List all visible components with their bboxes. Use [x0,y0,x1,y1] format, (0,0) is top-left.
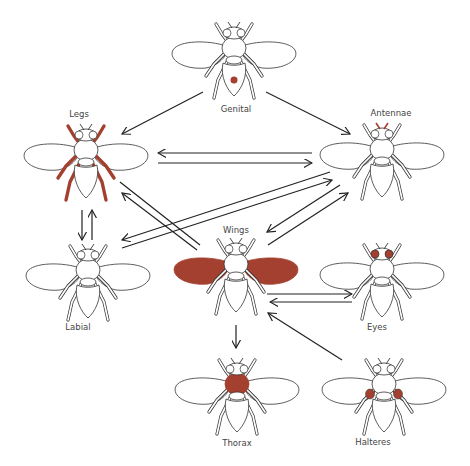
fly-halteres-illustration [322,358,446,434]
label-halteres: Halteres [355,437,391,447]
arrow-halteres-to-wings [268,313,342,360]
label-eyes: Eyes [367,322,388,332]
fly-transformation-diagram: Genital Legs Antennae Labial Wings Eyes … [0,0,470,466]
fly-genital-illustration [172,22,296,98]
label-thorax: Thorax [221,438,252,448]
fly-eyes-illustration [320,243,444,319]
fly-thorax-illustration [175,358,299,434]
arrow-genital-to-antennae [266,92,350,134]
label-antennae: Antennae [371,108,412,118]
label-genital: Genital [221,104,251,114]
arrow-wings-to-legs [122,193,197,250]
edges [82,92,352,360]
arrow-antennae-to-wings [267,185,340,232]
label-legs: Legs [69,109,89,119]
fly-antennae-illustration [320,123,444,199]
fly-labial-illustration [26,244,150,320]
arrow-labial-to-antennae [122,180,332,248]
label-wings: Wings [223,225,249,235]
arrow-genital-to-legs [122,92,203,134]
arrow-wings-to-antennae [268,193,348,245]
label-labial: Labial [65,322,90,332]
